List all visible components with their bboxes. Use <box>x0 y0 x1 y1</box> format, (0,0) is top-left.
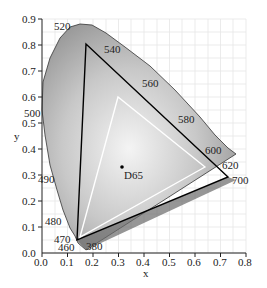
svg-text:0.8: 0.8 <box>238 256 252 268</box>
svg-text:0.8: 0.8 <box>22 39 36 51</box>
svg-text:0.5: 0.5 <box>162 256 176 268</box>
svg-text:0.3: 0.3 <box>111 256 125 268</box>
svg-text:0.6: 0.6 <box>22 91 36 103</box>
svg-text:0.2: 0.2 <box>22 195 36 207</box>
x-axis-label: x <box>143 267 149 279</box>
svg-text:0.4: 0.4 <box>22 143 36 155</box>
svg-text:0.0: 0.0 <box>22 247 36 259</box>
chromaticity-diagram: D65 0.0 0.1 0.2 0.3 0.4 0.5 0.6 0.7 0.8 … <box>0 0 267 288</box>
svg-text:0.9: 0.9 <box>22 13 36 25</box>
d65-label: D65 <box>124 169 143 181</box>
svg-text:600: 600 <box>205 144 222 156</box>
svg-text:0.6: 0.6 <box>187 256 201 268</box>
svg-text:380: 380 <box>86 240 103 252</box>
svg-text:0.7: 0.7 <box>22 65 36 77</box>
svg-text:560: 560 <box>142 77 159 89</box>
svg-text:0.2: 0.2 <box>85 256 99 268</box>
svg-text:500: 500 <box>24 107 41 119</box>
svg-text:480: 480 <box>45 215 62 227</box>
svg-text:470: 470 <box>54 233 71 245</box>
y-tick-labels: 0.0 0.1 0.2 0.3 0.4 0.5 0.6 0.7 0.8 0.9 <box>22 13 36 259</box>
svg-text:0.1: 0.1 <box>22 221 36 233</box>
diagram-canvas: D65 0.0 0.1 0.2 0.3 0.4 0.5 0.6 0.7 0.8 … <box>0 0 267 288</box>
svg-text:490: 490 <box>38 173 55 185</box>
svg-text:540: 540 <box>104 43 121 55</box>
svg-text:0.7: 0.7 <box>213 256 227 268</box>
svg-text:580: 580 <box>178 113 195 125</box>
svg-text:700: 700 <box>232 174 249 186</box>
svg-text:620: 620 <box>222 159 239 171</box>
svg-text:0.3: 0.3 <box>22 169 36 181</box>
svg-text:0.0: 0.0 <box>34 256 48 268</box>
svg-text:0.1: 0.1 <box>60 256 74 268</box>
y-axis-label: y <box>14 130 20 142</box>
svg-text:520: 520 <box>54 20 71 32</box>
